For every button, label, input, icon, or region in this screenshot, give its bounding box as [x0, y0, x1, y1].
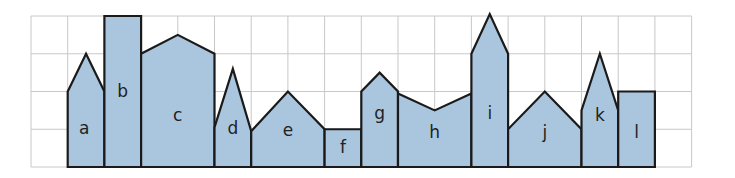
- building-l: l: [618, 92, 655, 168]
- building-i: i: [471, 14, 508, 167]
- building-e: e: [251, 92, 324, 168]
- building-g: g: [361, 73, 398, 167]
- building-k: k: [582, 54, 619, 167]
- building-label: i: [487, 103, 492, 123]
- building-label: l: [634, 122, 639, 142]
- building-label: h: [429, 122, 440, 142]
- building-b: b: [104, 16, 141, 167]
- building-label: g: [374, 103, 385, 123]
- building-label: e: [283, 120, 293, 140]
- building-label: k: [595, 105, 605, 125]
- building-shape: [471, 14, 508, 167]
- building-shape: [141, 35, 214, 167]
- building-label: j: [541, 122, 547, 142]
- building-f: f: [325, 129, 362, 167]
- building-label: f: [340, 137, 347, 157]
- building-label: d: [227, 118, 238, 138]
- building-c: c: [141, 35, 214, 167]
- building-label: b: [117, 81, 128, 101]
- building-label: c: [173, 105, 182, 125]
- skyline-diagram: abcdefghijkl: [0, 0, 735, 178]
- building-shape: [68, 54, 105, 167]
- building-j: j: [508, 92, 581, 168]
- building-d: d: [215, 69, 252, 167]
- building-label: a: [79, 118, 89, 138]
- building-a: a: [68, 54, 105, 167]
